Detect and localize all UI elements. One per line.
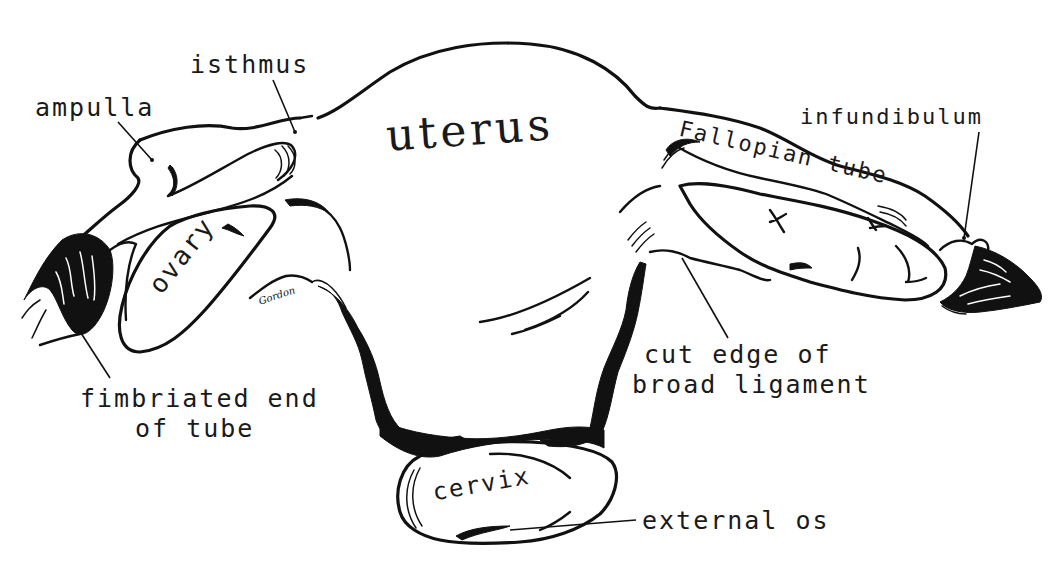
label-uterus: uterus [385, 102, 556, 158]
left-ampulla-outline [78, 140, 140, 240]
uterus-fold-lines [480, 278, 590, 334]
label-fimbriated-end: fimbriated end of tube [80, 384, 319, 444]
label-infundibulum: infundibulum [800, 106, 983, 128]
isthmus-junction [300, 116, 312, 118]
fimbriated-end-line2: of tube [80, 414, 319, 444]
leader-infundibulum [964, 132, 979, 238]
cut-edge-line2: broad ligament [632, 370, 871, 400]
left-tube-bottom-curve [40, 334, 80, 345]
label-ampulla: ampulla [35, 95, 154, 120]
ampulla-text: ampulla [35, 93, 154, 122]
label-cut-edge-broad-ligament: cut edge of broad ligament [632, 340, 871, 400]
label-external-os: external os [642, 508, 830, 533]
left-broad-ligament-shade [285, 199, 330, 214]
left-ovary-ligament [222, 224, 244, 236]
anatomy-diagram: uterus ovary cervix Fallopian tube ampul… [0, 0, 1064, 583]
leader-cut-edge [682, 258, 728, 338]
right-ligament-hatching [628, 222, 654, 252]
leader-isthmus [273, 80, 295, 132]
right-uterine-wall [540, 262, 646, 447]
external-os-text: external os [642, 506, 830, 535]
right-ovary-dimples [770, 210, 926, 282]
infundibulum-text: infundibulum [800, 104, 983, 129]
leader-ampulla [118, 122, 152, 160]
right-broad-ligament-edge [650, 250, 770, 280]
right-ovary-ligament-shade [790, 263, 812, 270]
label-isthmus: isthmus [190, 52, 309, 77]
right-uterine-side-upper [620, 186, 660, 212]
right-fimbriae [940, 240, 1042, 314]
external-os-slit [456, 526, 510, 540]
isthmus-text: isthmus [190, 50, 309, 79]
cervix-upper-shade [380, 420, 604, 457]
left-tube-upper-outline [140, 118, 300, 140]
left-ovary-upper-fold [290, 202, 350, 270]
cut-edge-line1: cut edge of [632, 340, 871, 370]
fimbriated-end-line1: fimbriated end [80, 384, 319, 414]
cervix-left-hatching [407, 468, 422, 528]
